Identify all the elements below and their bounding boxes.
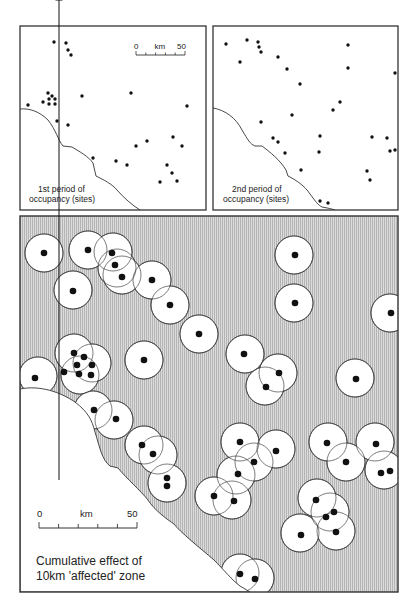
site-marker xyxy=(346,43,349,46)
site-marker xyxy=(393,148,396,151)
site-marker xyxy=(298,82,301,85)
site-marker xyxy=(50,94,53,97)
site-marker xyxy=(318,199,321,202)
site-marker xyxy=(119,274,126,281)
cumulative-caption-line-1: Cumulative effect of xyxy=(36,554,142,568)
site-marker xyxy=(113,416,120,423)
site-marker xyxy=(165,163,168,166)
panel-2-caption-line-1: 2nd period of xyxy=(232,184,282,194)
panel-2-frame xyxy=(213,26,398,210)
site-marker xyxy=(241,351,248,358)
site-marker xyxy=(41,100,44,103)
site-marker xyxy=(370,135,373,138)
site-marker xyxy=(125,163,128,166)
site-marker xyxy=(385,136,388,139)
site-marker xyxy=(32,375,39,382)
site-marker xyxy=(85,247,92,254)
site-marker xyxy=(257,45,260,48)
site-marker xyxy=(66,123,69,126)
site-marker xyxy=(256,40,259,43)
site-marker xyxy=(237,571,244,578)
site-marker xyxy=(76,371,83,378)
site-marker xyxy=(149,277,156,284)
site-marker xyxy=(324,440,331,447)
site-marker xyxy=(317,150,320,153)
site-marker xyxy=(69,53,72,56)
site-marker xyxy=(185,104,188,107)
site-marker xyxy=(323,514,330,521)
site-marker xyxy=(326,201,329,204)
site-marker xyxy=(346,66,349,69)
site-marker xyxy=(368,178,371,181)
site-marker xyxy=(70,288,77,295)
figure-canvas: 0 km 50 1st period of occupancy (sites) … xyxy=(0,0,420,604)
site-marker xyxy=(64,41,67,44)
scale-start-label: 0 xyxy=(134,42,139,51)
site-marker xyxy=(238,60,241,63)
site-marker xyxy=(313,497,320,504)
panel-1-caption-line-2: occupancy (sites) xyxy=(29,194,95,204)
site-marker xyxy=(196,331,203,338)
site-marker xyxy=(88,372,95,379)
site-marker xyxy=(170,171,173,174)
panel-1-caption-line-1: 1st period of xyxy=(38,184,85,194)
site-marker xyxy=(53,97,56,100)
site-marker xyxy=(331,509,338,516)
scale-start-label: 0 xyxy=(37,508,42,519)
site-marker xyxy=(273,448,280,455)
site-marker xyxy=(331,108,334,111)
site-marker xyxy=(292,252,299,259)
site-marker xyxy=(129,91,132,94)
panel-1-frame xyxy=(20,26,206,210)
site-marker xyxy=(80,94,83,97)
site-marker xyxy=(164,475,171,482)
scale-end-label: 50 xyxy=(177,42,186,51)
site-marker xyxy=(299,168,302,171)
site-marker xyxy=(393,71,396,74)
site-marker xyxy=(91,156,94,159)
site-marker xyxy=(114,159,117,162)
panel-period-2: 2nd period of occupancy (sites) xyxy=(213,26,398,210)
site-marker xyxy=(55,119,58,122)
site-marker xyxy=(333,529,340,536)
site-marker xyxy=(81,354,88,361)
site-marker xyxy=(145,139,148,142)
site-marker xyxy=(89,362,96,369)
site-marker xyxy=(245,38,248,41)
site-marker xyxy=(338,100,341,103)
site-marker xyxy=(231,498,238,505)
site-marker xyxy=(171,135,174,138)
site-marker xyxy=(373,441,380,448)
site-marker xyxy=(285,67,288,70)
site-marker xyxy=(276,140,279,143)
site-marker xyxy=(26,103,29,106)
site-marker xyxy=(164,483,171,490)
site-marker xyxy=(71,350,78,357)
site-marker xyxy=(134,144,137,147)
site-marker xyxy=(283,151,286,154)
scale-unit-label: km xyxy=(155,42,166,51)
site-marker xyxy=(271,136,274,139)
site-marker xyxy=(252,576,259,583)
site-marker xyxy=(158,180,161,183)
site-marker xyxy=(53,102,56,105)
site-marker xyxy=(139,442,146,449)
site-marker xyxy=(46,91,49,94)
site-marker xyxy=(150,451,157,458)
site-marker xyxy=(365,169,368,172)
scale-unit-label: km xyxy=(80,508,93,519)
site-marker xyxy=(66,48,69,51)
site-marker xyxy=(47,97,50,100)
site-marker xyxy=(388,310,395,317)
site-marker xyxy=(259,50,262,53)
site-marker xyxy=(141,357,148,364)
site-marker xyxy=(237,439,244,446)
site-marker xyxy=(47,102,50,105)
site-marker xyxy=(109,250,116,257)
site-marker xyxy=(276,55,279,58)
site-marker xyxy=(292,300,299,307)
panel-period-1: 0 km 50 1st period of occupancy (sites) xyxy=(20,26,206,210)
site-marker xyxy=(298,532,305,539)
site-marker xyxy=(167,302,174,309)
site-marker xyxy=(263,384,270,391)
